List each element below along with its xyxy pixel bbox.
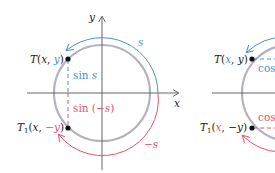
point-T xyxy=(65,56,70,61)
arc-right-red xyxy=(243,136,275,152)
point-T1-right-label: T1(x, −y) xyxy=(200,121,247,135)
cos-bottom-label: cos xyxy=(258,111,275,123)
x-axis-label: x xyxy=(174,97,180,109)
point-T1 xyxy=(65,125,70,130)
sin-neg-s-label: sin (−s) xyxy=(73,102,114,114)
left-figure: x y s −s sin s sin (−s) T(x, y) T1(x, −y… xyxy=(17,11,180,170)
cos-top-label: cos xyxy=(258,62,275,74)
point-T1-label: T1(x, −y) xyxy=(17,121,64,135)
sin-s-label: sin s xyxy=(73,69,98,81)
arc-neg-s-label: −s xyxy=(144,138,159,150)
point-T-label: T(x, y) xyxy=(30,53,64,65)
right-figure: cos cos T(x, y) T1(x, −y) xyxy=(200,37,275,152)
point-T-right-label: T(x, y) xyxy=(214,53,248,65)
point-T-right xyxy=(249,56,254,61)
unit-circle-symmetry-diagram: x y s −s sin s sin (−s) T(x, y) T1(x, −y… xyxy=(0,0,275,173)
arc-s-label: s xyxy=(138,36,144,48)
point-T1-right xyxy=(249,125,254,130)
y-axis-label: y xyxy=(88,11,96,23)
